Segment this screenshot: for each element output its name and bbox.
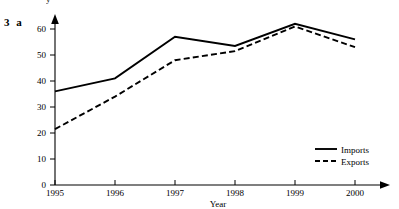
- y-tick-label-50: 50: [37, 50, 47, 60]
- y-tick-marks: [50, 29, 55, 185]
- legend-label-exports: Exports: [341, 157, 369, 167]
- x-tick-label-1997: 1997: [166, 188, 185, 198]
- series-line-imports: [55, 24, 355, 92]
- x-tick-labels: 1995 1996 1997 1998 1999 2000: [46, 188, 365, 198]
- line-chart: 0 10 20 30 40 50 60 1995 1996 1997 1998 …: [0, 0, 399, 209]
- y-tick-labels: 0 10 20 30 40 50 60: [37, 24, 47, 190]
- y-axis-arrowhead: [51, 14, 59, 24]
- x-tick-label-1995: 1995: [46, 188, 65, 198]
- x-tick-label-1999: 1999: [286, 188, 305, 198]
- y-tick-label-40: 40: [37, 76, 47, 86]
- x-tick-label-1996: 1996: [106, 188, 125, 198]
- x-axis-arrowhead: [380, 181, 390, 189]
- legend-label-imports: Imports: [341, 145, 369, 155]
- chart-page: y 3 a 0 10 20 30 40 5: [0, 0, 399, 209]
- chart-legend: Imports Exports: [315, 145, 369, 167]
- y-tick-label-30: 30: [37, 102, 47, 112]
- x-axis-title: Year: [210, 199, 227, 209]
- x-tick-label-2000: 2000: [346, 188, 365, 198]
- y-tick-label-20: 20: [37, 128, 47, 138]
- x-tick-label-1998: 1998: [226, 188, 245, 198]
- y-tick-label-60: 60: [37, 24, 47, 34]
- x-tick-marks: [55, 180, 355, 185]
- y-tick-label-10: 10: [37, 154, 47, 164]
